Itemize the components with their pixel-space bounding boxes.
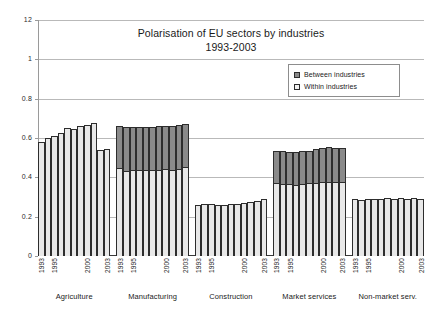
bar[interactable] [228, 204, 235, 256]
bar[interactable] [306, 151, 313, 256]
x-axis-tick: 2003 [182, 257, 189, 291]
x-axis-tick: 2000 [319, 257, 326, 291]
bar[interactable] [84, 125, 91, 256]
bar[interactable] [149, 127, 156, 256]
legend-item-between[interactable]: Between industries [294, 69, 395, 80]
bar[interactable] [71, 129, 78, 256]
bar[interactable] [38, 142, 45, 256]
x-axis-tick: 2000 [84, 257, 91, 291]
bar[interactable] [326, 147, 333, 256]
bar[interactable] [162, 126, 169, 256]
bar[interactable] [273, 151, 280, 256]
bar[interactable] [45, 138, 52, 256]
bar-segment-between [150, 128, 155, 171]
x-axis-tick: 2000 [162, 257, 169, 291]
bar-segment-within [359, 201, 364, 256]
x-axis-tick: 2003 [339, 257, 346, 291]
bar[interactable] [398, 198, 405, 256]
bar[interactable] [130, 127, 137, 256]
bar[interactable] [91, 123, 98, 256]
bar[interactable] [208, 204, 215, 256]
x-axis-tick: 1993 [116, 257, 123, 291]
x-axis-group-label: Market services [273, 292, 345, 306]
bar[interactable] [169, 126, 176, 256]
bar[interactable] [234, 204, 241, 256]
y-axis-tick-label: 1 [0, 55, 32, 62]
x-axis-tick [143, 257, 150, 291]
bar[interactable] [58, 133, 65, 257]
bar-segment-between [177, 126, 182, 169]
bar[interactable] [411, 198, 418, 256]
bar-segment-within [46, 139, 51, 256]
bar-segment-between [131, 128, 136, 171]
bar[interactable] [247, 202, 254, 256]
bar-segment-within [39, 143, 44, 256]
bar[interactable] [339, 148, 346, 256]
bar[interactable] [319, 148, 326, 256]
bar-segment-within [314, 184, 319, 256]
bar[interactable] [182, 124, 189, 256]
bar-segment-within [242, 204, 247, 256]
bar[interactable] [77, 126, 84, 256]
bar-group-non-market-serv [352, 20, 424, 256]
bar[interactable] [97, 150, 104, 256]
bar-segment-within [72, 130, 77, 256]
bar[interactable] [136, 127, 143, 256]
bar[interactable] [241, 203, 248, 256]
bar[interactable] [384, 198, 391, 256]
bar-segment-between [281, 152, 286, 184]
bar[interactable] [404, 199, 411, 256]
bar[interactable] [391, 199, 398, 256]
bar[interactable] [116, 126, 123, 256]
bar-segment-between [333, 149, 338, 183]
bar[interactable] [254, 201, 261, 256]
x-axis-tick [64, 257, 71, 291]
bar[interactable] [156, 126, 163, 256]
bar[interactable] [195, 205, 202, 256]
bar[interactable] [358, 200, 365, 256]
bar[interactable] [371, 199, 378, 256]
bar[interactable] [280, 151, 287, 256]
bar[interactable] [104, 149, 111, 256]
bar[interactable] [143, 127, 150, 256]
x-axis-tick [378, 257, 385, 291]
bar[interactable] [261, 199, 268, 256]
x-axis-group-ticks: 1993199520002003 [352, 257, 424, 291]
x-axis-tick-label: 2003 [417, 258, 424, 273]
bar[interactable] [365, 199, 372, 256]
bar[interactable] [221, 205, 228, 256]
bar-segment-within [209, 205, 214, 256]
bar[interactable] [123, 127, 130, 256]
x-axis-group-label: Agriculture [38, 292, 110, 306]
x-axis-group-labels: AgricultureManufacturingConstructionMark… [38, 292, 424, 306]
x-axis-tick: 1993 [195, 257, 202, 291]
y-axis-tick-label: 0.6 [0, 134, 32, 141]
x-axis-tick: 2003 [261, 257, 268, 291]
bar[interactable] [51, 136, 58, 256]
bar[interactable] [64, 128, 71, 256]
x-axis-tick-label: 2003 [182, 258, 189, 273]
legend-item-within[interactable]: Within industries [294, 81, 395, 92]
bar[interactable] [201, 204, 208, 256]
x-axis-tick [247, 257, 254, 291]
bar[interactable] [176, 125, 183, 256]
bar-segment-within [372, 200, 377, 256]
bar[interactable] [417, 199, 424, 256]
bar[interactable] [293, 152, 300, 256]
bar[interactable] [332, 148, 339, 256]
bar[interactable] [378, 199, 385, 256]
bar-segment-between [294, 153, 299, 186]
y-axis-tick-label: 0.8 [0, 95, 32, 102]
bar-segment-within [405, 200, 410, 256]
bar-segment-within [274, 184, 279, 256]
bar-segment-within [379, 200, 384, 256]
bar[interactable] [352, 199, 359, 256]
bar[interactable] [313, 149, 320, 256]
y-axis-tick-label: 0.2 [0, 213, 32, 220]
bar[interactable] [215, 205, 222, 256]
bar-segment-between [144, 128, 149, 171]
bar[interactable] [299, 151, 306, 256]
bar[interactable] [286, 152, 293, 256]
bar-segment-between [287, 153, 292, 186]
legend-label-within: Within industries [304, 83, 357, 90]
